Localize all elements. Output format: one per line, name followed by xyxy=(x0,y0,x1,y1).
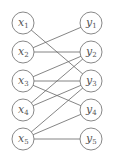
node-y5: y5 xyxy=(80,128,102,150)
node-y3: y3 xyxy=(80,70,102,92)
node-x3: x3 xyxy=(12,70,34,92)
bipartite-graph: x1x2x3x4x5y1y2y3y4y5 xyxy=(0,0,114,165)
node-x5: x5 xyxy=(12,128,34,150)
node-x4: x4 xyxy=(12,99,34,121)
node-x1: x1 xyxy=(12,12,34,34)
node-y2: y2 xyxy=(80,41,102,63)
node-y1: y1 xyxy=(80,12,102,34)
node-y4: y4 xyxy=(80,99,102,121)
node-x2: x2 xyxy=(12,41,34,63)
